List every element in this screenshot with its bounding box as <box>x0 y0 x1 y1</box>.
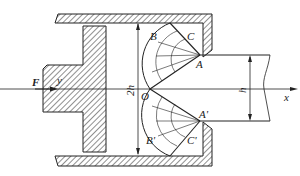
label-force: F <box>31 76 40 88</box>
label-y-axis: y <box>56 74 62 86</box>
label-dim-h: h <box>236 87 248 93</box>
label-point-a: A <box>195 58 203 70</box>
label-point-a-prime: A' <box>198 108 209 120</box>
dim-2h-arrow-bottom-icon <box>136 148 140 155</box>
dim-h-arrow-top-icon <box>248 55 252 62</box>
label-dim-2h: 2h <box>124 85 136 97</box>
label-point-b: B <box>150 30 157 42</box>
dim-2h-arrow-top-icon <box>136 23 140 30</box>
x-axis-arrow-icon <box>290 87 298 91</box>
extrusion-diagram: F y O B C A A' B' C' x 2h h <box>0 0 300 176</box>
label-point-c: C <box>187 30 195 42</box>
label-point-c-prime: C' <box>187 134 197 146</box>
label-origin: O <box>141 90 149 102</box>
strip-break-line <box>264 55 270 121</box>
label-x-axis: x <box>283 91 289 103</box>
label-point-b-prime: B' <box>146 134 156 146</box>
dim-h-arrow-bottom-icon <box>248 114 252 121</box>
